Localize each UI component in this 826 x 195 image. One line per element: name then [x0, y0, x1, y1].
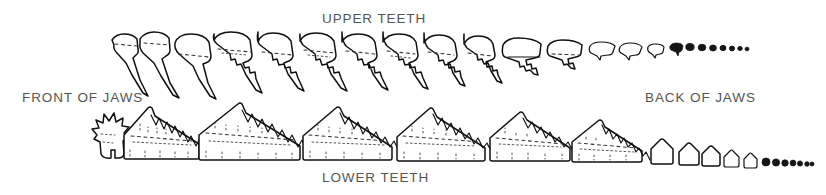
lower-posterior-tooth-1	[651, 139, 673, 164]
upper-tooth-6	[300, 33, 347, 91]
upper-tiny-teeth-series	[686, 43, 749, 51]
upper-tooth-10	[464, 34, 502, 83]
upper-tooth-11	[502, 38, 541, 75]
upper-tooth-15	[648, 44, 664, 58]
lower-posterior-tooth-3	[702, 146, 720, 166]
upper-teeth-label: UPPER TEETH	[322, 11, 426, 26]
upper-tooth-13	[589, 42, 615, 60]
lower-tooth-6	[490, 112, 581, 161]
lower-tooth-5	[397, 108, 492, 161]
upper-tooth-row	[112, 32, 749, 99]
lower-posterior-tooth-4	[724, 150, 739, 167]
upper-tooth-4	[213, 32, 262, 93]
lower-tooth-3	[199, 103, 307, 160]
lower-teeth-label: LOWER TEETH	[322, 170, 429, 185]
upper-tooth-7	[342, 32, 388, 90]
upper-tooth-2	[140, 32, 179, 98]
upper-tooth-8	[383, 32, 428, 89]
upper-tooth-9	[424, 33, 465, 86]
lower-tooth-row	[92, 103, 814, 168]
lower-tooth-2	[124, 107, 203, 159]
lower-posterior-tooth-2	[679, 143, 699, 165]
front-of-jaws-label: FRONT OF JAWS	[22, 90, 143, 105]
lower-tooth-4	[303, 107, 399, 160]
upper-tooth-16	[670, 43, 683, 56]
upper-tooth-12	[547, 40, 582, 69]
lower-tooth-7	[572, 120, 650, 162]
dentition-figure: UPPER TEETH FRONT OF JAWS BACK OF JAWS L…	[0, 0, 826, 195]
lower-tiny-teeth-series	[762, 158, 814, 166]
lower-posterior-tooth-5	[744, 153, 757, 168]
upper-tooth-14	[619, 43, 642, 60]
back-of-jaws-label: BACK OF JAWS	[645, 90, 756, 105]
upper-tooth-3	[175, 34, 216, 99]
upper-tooth-5	[257, 32, 304, 91]
